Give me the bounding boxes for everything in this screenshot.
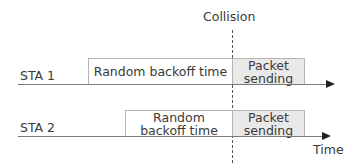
sta2-backoff-label-line2: backoff time: [140, 124, 218, 137]
collision-marker-line: [232, 30, 233, 163]
station-label-sta2: STA 2: [20, 120, 55, 135]
sta2-axis-arrow-icon: [322, 132, 331, 140]
sta2-backoff-label-line1: Random: [140, 111, 218, 124]
sta2-packet-label-line1: Packet: [244, 111, 293, 124]
sta2-backoff-box: Random backoff time: [125, 110, 233, 136]
time-axis-label: Time: [313, 142, 344, 157]
sta2-timeline-axis: [18, 136, 328, 137]
sta1-axis-arrow-icon: [326, 80, 335, 88]
sta1-packet-box: Packet sending: [233, 58, 305, 84]
sta1-packet-label-line1: Packet: [244, 59, 293, 72]
sta1-backoff-box: Random backoff time: [88, 58, 233, 84]
sta1-timeline-axis: [18, 84, 332, 85]
collision-label: Collision: [203, 9, 255, 24]
sta1-backoff-label: Random backoff time: [94, 65, 227, 78]
sta2-packet-label-line2: sending: [244, 124, 293, 137]
sta2-packet-box: Packet sending: [233, 110, 305, 136]
station-label-sta1: STA 1: [20, 68, 55, 83]
sta1-packet-label-line2: sending: [244, 72, 293, 85]
csma-collision-diagram: Collision STA 1 Random backoff time Pack…: [0, 0, 357, 165]
